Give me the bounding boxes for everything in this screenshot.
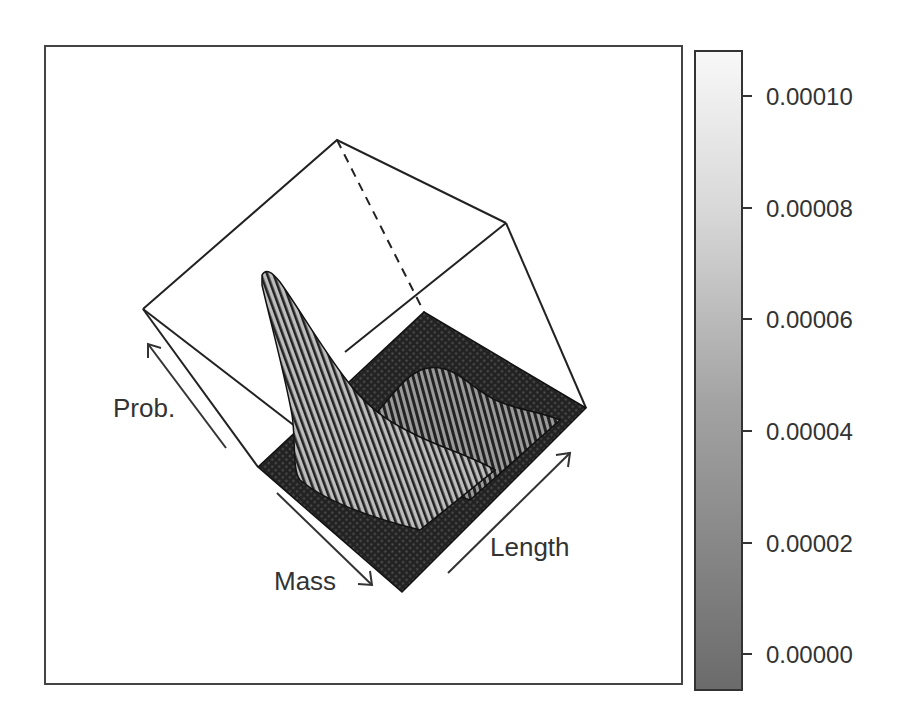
colorbar-tick-label: 0.00006: [766, 306, 853, 333]
colorbar-gradient: [695, 51, 742, 690]
colorbar-tick-label: 0.00000: [766, 641, 853, 668]
colorbar-tick-label: 0.00002: [766, 530, 853, 557]
colorbar-tick-label: 0.00004: [766, 418, 853, 445]
plot-frame: [45, 46, 682, 684]
chart-canvas: Prob. Mass Length 0.00010 0.00008 0.0000…: [0, 0, 915, 724]
z-axis-label: Prob.: [113, 393, 175, 423]
colorbar: 0.00010 0.00008 0.00006 0.00004 0.00002 …: [695, 51, 853, 690]
colorbar-tick-label: 0.00008: [766, 195, 853, 222]
x-axis-label: Mass: [274, 566, 336, 596]
colorbar-tick-label: 0.00010: [766, 83, 853, 110]
y-axis-label: Length: [490, 532, 570, 562]
